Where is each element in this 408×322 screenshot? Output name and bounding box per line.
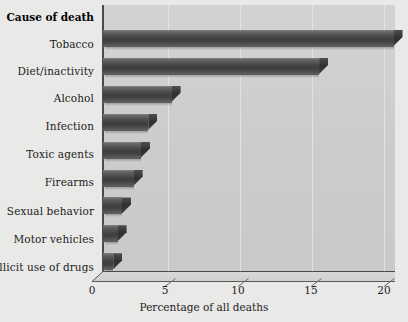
- bar-end-cap: [141, 142, 150, 158]
- bar-drop-shadow: [105, 186, 134, 190]
- category-label-motor-vehicles: Motor vehicles: [0, 233, 94, 245]
- x-tick-label-5: 5: [145, 284, 185, 296]
- bar-end-cap: [134, 170, 143, 186]
- bar-body: [103, 253, 113, 270]
- bar-motor-vehicles: [103, 225, 127, 241]
- bar-alcohol: [103, 86, 181, 102]
- bar-chart: Cause of death Tobacco Diet/inactivity A…: [0, 0, 408, 322]
- bar-end-cap: [319, 58, 328, 74]
- category-label-illicit-drugs: Illicit use of drugs: [0, 261, 94, 273]
- bar-body: [103, 170, 134, 187]
- category-label-firearms: Firearms: [0, 176, 94, 188]
- bar-body: [103, 197, 122, 214]
- category-label-tobacco: Tobacco: [0, 38, 94, 50]
- bar-end-cap: [118, 225, 127, 241]
- bar-end-cap: [148, 114, 157, 130]
- bar-body: [103, 142, 141, 159]
- tick-mark-5: [165, 272, 176, 281]
- bar-drop-shadow: [105, 46, 394, 50]
- axis-corner-slant: [92, 271, 104, 282]
- bar-body: [103, 114, 148, 131]
- bar-body: [103, 30, 394, 47]
- bar-firearms: [103, 170, 143, 186]
- x-tick-label-20: 20: [364, 284, 404, 296]
- category-label-alcohol: Alcohol: [0, 92, 94, 104]
- bar-drop-shadow: [105, 241, 118, 245]
- bar-infection: [103, 114, 157, 130]
- category-label-sexual-behavior: Sexual behavior: [0, 205, 94, 217]
- bar-drop-shadow: [105, 74, 319, 78]
- bar-end-cap: [394, 30, 403, 46]
- bar-drop-shadow: [105, 213, 122, 217]
- bar-body: [103, 58, 319, 75]
- bar-end-cap: [122, 197, 131, 213]
- category-label-diet: Diet/inactivity: [0, 65, 94, 77]
- tick-mark-10: [238, 272, 249, 281]
- bar-end-cap: [172, 86, 181, 102]
- tick-mark-20: [384, 272, 395, 281]
- bar-end-cap: [113, 253, 122, 269]
- x-tick-label-15: 15: [291, 284, 331, 296]
- category-label-infection: Infection: [0, 120, 94, 132]
- y-axis-title: Cause of death: [0, 11, 94, 23]
- x-tick-label-0: 0: [72, 284, 112, 296]
- bar-body: [103, 225, 118, 242]
- bar-illicit-use-of-drugs: [103, 253, 122, 269]
- bar-sexual-behavior: [103, 197, 131, 213]
- x-axis-title: Percentage of all deaths: [0, 301, 408, 313]
- x-tick-label-10: 10: [218, 284, 258, 296]
- bar-toxic-agents: [103, 142, 150, 158]
- bar-drop-shadow: [105, 130, 148, 134]
- category-label-toxic-agents: Toxic agents: [0, 148, 94, 160]
- tick-mark-15: [311, 272, 322, 281]
- bar-tobacco: [103, 30, 403, 46]
- bar-body: [103, 86, 172, 103]
- bar-drop-shadow: [105, 158, 141, 162]
- bar-diet-inactivity: [103, 58, 328, 74]
- bar-drop-shadow: [105, 102, 172, 106]
